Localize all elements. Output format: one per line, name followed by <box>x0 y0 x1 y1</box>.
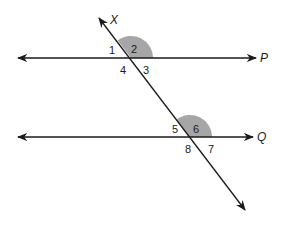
label-q: Q <box>257 130 266 144</box>
diagram-canvas: X P Q 1 2 3 4 5 6 7 8 <box>0 0 282 225</box>
angle-label-5: 5 <box>172 123 178 135</box>
angle-label-2: 2 <box>131 43 137 55</box>
angle-label-7: 7 <box>208 143 214 155</box>
angle-label-1: 1 <box>109 44 115 56</box>
angle-label-6: 6 <box>193 123 199 135</box>
angle-label-8: 8 <box>185 143 191 155</box>
label-p: P <box>260 51 268 65</box>
label-x: X <box>109 13 119 27</box>
angle-label-3: 3 <box>143 64 149 76</box>
angle-label-4: 4 <box>120 64 126 76</box>
transversal-line <box>99 18 245 210</box>
